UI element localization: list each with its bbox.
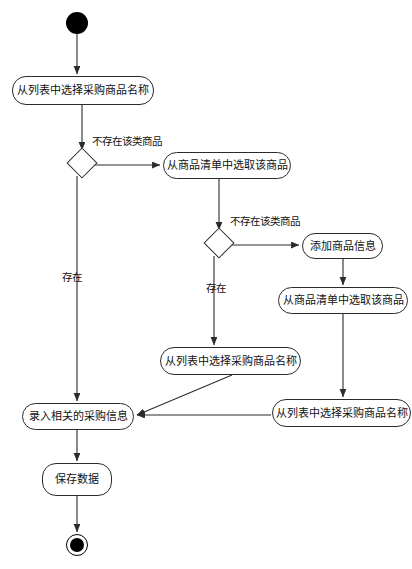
action-node-save-data[interactable]: 保存数据	[42, 463, 112, 496]
activity-diagram-canvas: 从列表中选择采购商品名称 从商品清单中选取该商品 添加商品信息 从商品清单中选取…	[0, 0, 412, 569]
action-node-select-purchase-item-name-1[interactable]: 从列表中选择采购商品名称	[12, 76, 154, 105]
action-node-add-item-info[interactable]: 添加商品信息	[302, 233, 383, 259]
connector-a5-to-a7	[137, 375, 232, 415]
edge-label-not-exists-2: 不存在该类商品	[230, 216, 300, 227]
action-node-enter-purchase-info[interactable]: 录入相关的采购信息	[22, 403, 134, 430]
action-node-pick-item-from-catalog-1[interactable]: 从商品清单中选取该商品	[163, 152, 291, 179]
end-node-dot	[70, 538, 84, 552]
action-node-select-purchase-item-name-3[interactable]: 从列表中选择采购商品名称	[272, 399, 411, 427]
edge-label-not-exists-1: 不存在该类商品	[92, 136, 162, 147]
edge-label-exists-1: 存在	[62, 272, 82, 283]
action-node-pick-item-from-catalog-2[interactable]: 从商品清单中选取该商品	[278, 287, 408, 314]
edge-label-exists-2: 存在	[206, 283, 226, 294]
start-node	[66, 12, 88, 34]
action-node-select-purchase-item-name-2[interactable]: 从列表中选择采购商品名称	[160, 347, 301, 375]
